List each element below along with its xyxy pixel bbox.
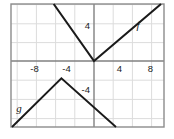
- x-tick-label-pos4: 4: [117, 63, 122, 74]
- curve-label-g: g: [16, 102, 22, 114]
- coordinate-graph-figure: -8 -4 4 8 4 -4 f g: [0, 0, 174, 139]
- y-tick-label-pos4: 4: [85, 20, 90, 31]
- x-tick-label-pos8: 8: [148, 63, 153, 74]
- x-tick-label-neg8: -8: [30, 63, 38, 74]
- x-tick-label-neg4: -4: [62, 63, 70, 74]
- graph-canvas: -8 -4 4 8 4 -4 f g: [0, 0, 174, 139]
- y-tick-label-neg4: -4: [82, 84, 90, 95]
